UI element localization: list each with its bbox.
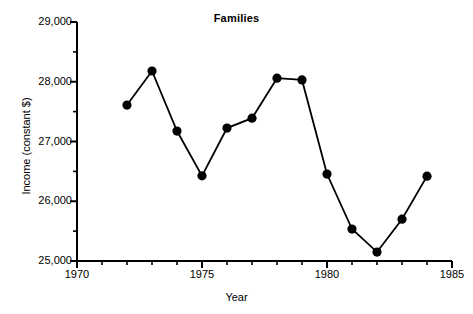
data-point-1981 xyxy=(347,224,356,233)
data-point-1982 xyxy=(372,247,381,256)
data-point-1979 xyxy=(297,75,306,84)
data-point-1978 xyxy=(272,74,281,83)
data-point-1972 xyxy=(122,100,131,109)
data-markers xyxy=(122,66,431,256)
data-point-1980 xyxy=(322,169,331,178)
data-point-1974 xyxy=(172,126,181,135)
axes-lines xyxy=(77,22,452,261)
chart-container: Families Income (constant $) Year 29,000… xyxy=(0,0,473,314)
data-point-1973 xyxy=(147,66,156,75)
plot-area xyxy=(0,0,473,314)
data-point-1983 xyxy=(397,215,406,224)
data-point-1984 xyxy=(422,172,431,181)
data-point-1975 xyxy=(197,171,206,180)
axis-ticks xyxy=(70,22,452,268)
data-point-1977 xyxy=(247,114,256,123)
data-point-1976 xyxy=(222,123,231,132)
data-line xyxy=(127,71,427,252)
